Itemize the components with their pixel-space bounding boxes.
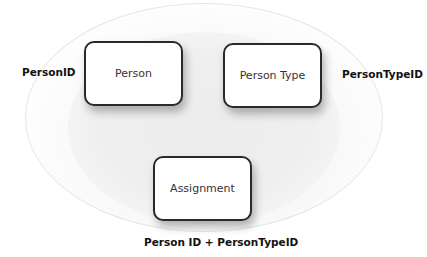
entity-person-type: Person Type xyxy=(223,43,322,108)
entity-person: Person xyxy=(84,41,183,106)
assignment-key-label: Person ID + PersonTypeID xyxy=(144,236,298,248)
person-type-key-label: PersonTypeID xyxy=(342,68,423,80)
entity-assignment-label: Assignment xyxy=(170,182,235,195)
entity-person-type-label: Person Type xyxy=(240,69,306,82)
person-key-label: PersonID xyxy=(22,66,76,78)
entity-person-label: Person xyxy=(115,67,152,80)
entity-assignment: Assignment xyxy=(153,156,252,221)
